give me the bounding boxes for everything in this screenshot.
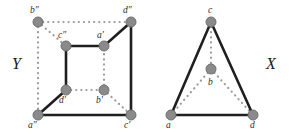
node-label-d2: d″ [123,6,132,16]
node-b1[interactable] [99,85,109,95]
node-b2[interactable] [33,17,43,27]
edge-c-d [211,22,253,115]
dotted-edges-layer [38,22,253,115]
node-label-c1: c′ [124,121,130,131]
node-c[interactable] [206,17,216,27]
graph-label-X: X [266,56,276,72]
node-label-b2: b″ [30,6,39,16]
edge-b1-c1 [104,90,131,115]
edge-a-c [171,22,211,115]
node-a2[interactable] [33,110,43,120]
node-d2[interactable] [126,17,136,27]
node-label-a2: a″ [28,121,37,131]
node-label-c2: c″ [58,31,66,41]
node-b[interactable] [206,64,216,74]
node-d1[interactable] [61,85,71,95]
node-c2[interactable] [61,41,71,51]
edge-b-a [171,69,211,115]
edge-b-d [211,69,253,115]
node-label-d: d [250,121,255,131]
node-d[interactable] [248,110,258,120]
node-label-a1: a′ [97,31,104,41]
node-label-d1: d′ [59,96,66,106]
node-a1[interactable] [99,41,109,51]
diagram-canvas: b″d″c″a′d′b′a″c′YcbadX [0,0,298,136]
node-c1[interactable] [126,110,136,120]
node-label-b1: b′ [96,96,103,106]
solid-edges-layer [38,22,253,115]
node-a[interactable] [166,110,176,120]
graph-label-Y: Y [12,56,21,72]
node-label-c: c [208,6,212,16]
node-label-a: a [166,121,171,131]
node-label-b: b [208,78,213,88]
graph-svg [0,0,298,136]
